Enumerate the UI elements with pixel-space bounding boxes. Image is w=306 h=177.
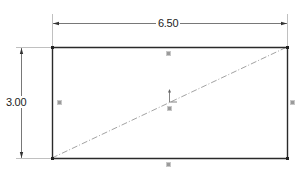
midpoint-relation-icon[interactable] (167, 106, 172, 111)
corner-point-top-left[interactable] (51, 46, 54, 49)
width-dimension-value[interactable]: 6.50 (156, 17, 180, 29)
corner-point-bottom-right[interactable] (286, 157, 289, 160)
height-arrow-bottom-icon (20, 152, 23, 158)
corner-point-bottom-left[interactable] (51, 157, 54, 160)
height-dimension-value[interactable]: 3.00 (4, 96, 28, 108)
height-arrow-top-icon (20, 48, 23, 54)
origin-icon[interactable] (168, 89, 177, 102)
vertical-relation-right-icon[interactable] (290, 100, 295, 105)
corner-point-top-right[interactable] (286, 46, 289, 49)
sketch-canvas[interactable] (0, 0, 306, 177)
vertical-relation-left-icon[interactable] (57, 100, 62, 105)
construction-diagonal[interactable] (52, 47, 287, 158)
horizontal-relation-bottom-icon[interactable] (166, 162, 171, 167)
width-arrow-right-icon (281, 22, 287, 25)
horizontal-relation-top-icon[interactable] (166, 51, 171, 56)
width-arrow-left-icon (53, 22, 59, 25)
